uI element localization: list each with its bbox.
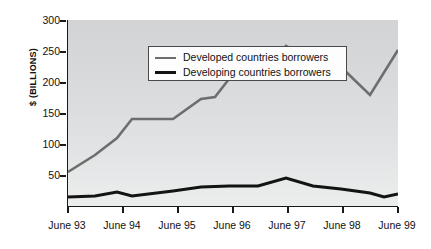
x-axis-ticks: June 93 June 94 June 95 June 96 June 97 … [0,0,431,249]
x-tick-mark-2 [122,207,124,213]
x-tick-mark-6 [342,207,344,213]
chart-figure: $ (BILLIONS) 300 250 200 150 100 50 Deve… [0,0,431,249]
x-tick-mark-3 [177,207,179,213]
x-tick-label-3: June 95 [158,219,195,231]
x-tick-label-7: June 99 [378,219,415,231]
x-tick-mark-4 [232,207,234,213]
x-tick-label-6: June 98 [323,219,360,231]
x-tick-label-4: June 96 [213,219,250,231]
x-tick-mark-1 [67,207,69,213]
x-tick-mark-7 [397,207,399,213]
x-tick-label-5: June 97 [268,219,305,231]
x-tick-label-2: June 94 [103,219,140,231]
x-tick-mark-5 [287,207,289,213]
x-tick-label-1: June 93 [48,219,85,231]
